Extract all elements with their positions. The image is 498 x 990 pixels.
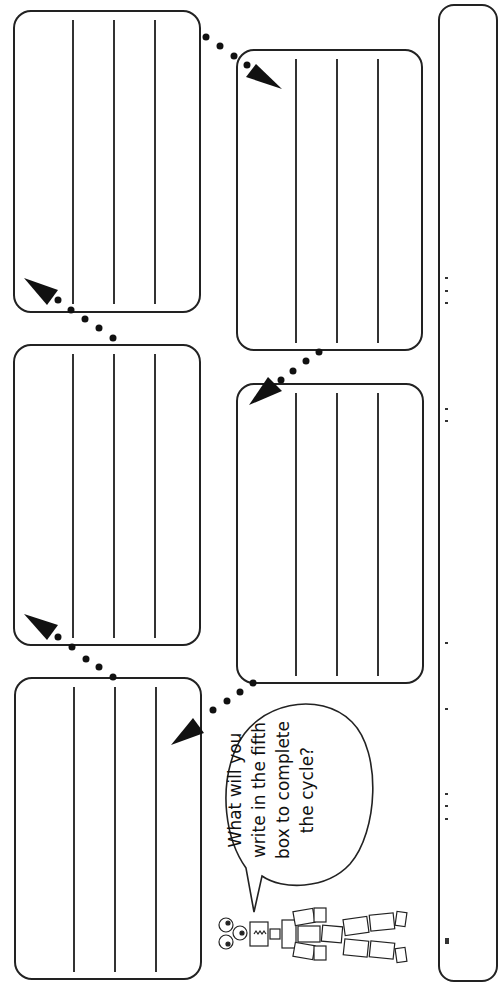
speech-line-4: the cycle?	[295, 700, 319, 880]
instruction-text-fragment	[445, 408, 448, 410]
instruction-text-fragment	[445, 290, 448, 292]
instruction-panel-frame	[438, 4, 498, 982]
writing-line	[72, 20, 74, 304]
speech-line-3: box to complete	[271, 700, 295, 880]
writing-line	[113, 354, 115, 638]
writing-box-1[interactable]	[13, 10, 201, 313]
writing-line	[295, 393, 297, 676]
instruction-text-fragment	[445, 302, 448, 304]
writing-box-4[interactable]	[236, 49, 423, 351]
speech-line-1: What will you	[223, 700, 247, 880]
writing-line	[155, 687, 157, 972]
writing-box-5[interactable]	[236, 383, 424, 684]
writing-line	[113, 20, 115, 304]
writing-line	[114, 687, 116, 972]
writing-line	[377, 59, 379, 343]
writing-line	[377, 393, 379, 676]
instruction-text-fragment	[445, 793, 448, 795]
instruction-text-fragment	[445, 277, 448, 279]
writing-line	[73, 687, 75, 972]
instruction-text-fragment	[445, 642, 448, 644]
instruction-text-fragment	[445, 938, 449, 944]
robot-character-icon	[219, 908, 407, 963]
writing-line	[336, 59, 338, 343]
writing-line	[72, 354, 74, 638]
writing-box-3[interactable]	[14, 677, 202, 980]
writing-line	[154, 354, 156, 638]
instruction-text-fragment	[445, 818, 448, 820]
writing-box-2[interactable]	[13, 344, 201, 646]
speech-line-2: write in the fifth	[247, 700, 271, 880]
writing-line	[154, 20, 156, 304]
instruction-text-fragment	[445, 420, 448, 422]
instruction-text-fragment	[445, 708, 448, 710]
writing-line	[336, 393, 338, 676]
instruction-text-fragment	[445, 805, 448, 807]
speech-bubble-text: What will you write in the fifth box to …	[223, 700, 373, 880]
writing-line	[295, 59, 297, 343]
